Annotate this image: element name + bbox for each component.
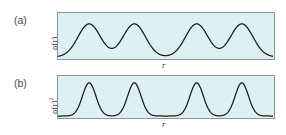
panel-a-tag: (a) <box>14 15 27 26</box>
panel-a-plot-area <box>57 12 275 60</box>
panel-a-curve <box>58 13 273 58</box>
panel-b-x-axis-label: r <box>162 120 166 129</box>
figure-container: (a) ρ(r) r (b) ρ(r)2 r <box>0 0 286 135</box>
panel-b-y-axis-label-exponent: 2 <box>47 97 54 100</box>
panel-a-x-axis-label: r <box>162 61 166 70</box>
panel-b-plot-area <box>57 75 275 119</box>
panel-b-tag: (b) <box>14 78 27 89</box>
panel-b-curve <box>58 76 273 117</box>
